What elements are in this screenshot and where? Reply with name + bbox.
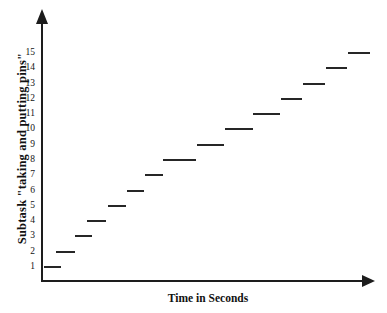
arrow-up-icon [36, 9, 48, 24]
step-segment [145, 174, 163, 176]
step-segment [225, 128, 252, 130]
step-segment [253, 113, 280, 115]
y-axis-title: Subtask "taking and putting pins" [15, 24, 30, 274]
x-axis-line [41, 280, 365, 282]
y-axis-line [41, 22, 43, 282]
step-segment [87, 220, 106, 222]
plot-area: 123456789101112131415 [0, 0, 387, 313]
step-segment [127, 190, 145, 192]
step-segment [75, 235, 92, 237]
step-segment [326, 67, 347, 69]
arrow-right-icon [362, 275, 375, 287]
step-segment [163, 159, 196, 161]
step-segment [108, 205, 126, 207]
step-segment [56, 251, 76, 253]
step-segment [348, 52, 370, 54]
step-segment [281, 98, 302, 100]
x-axis-title: Time in Seconds [42, 292, 374, 304]
chart-figure: 123456789101112131415 Subtask "taking an… [0, 0, 387, 313]
step-segment [197, 144, 224, 146]
step-segment [303, 83, 325, 85]
step-segment [44, 266, 61, 268]
